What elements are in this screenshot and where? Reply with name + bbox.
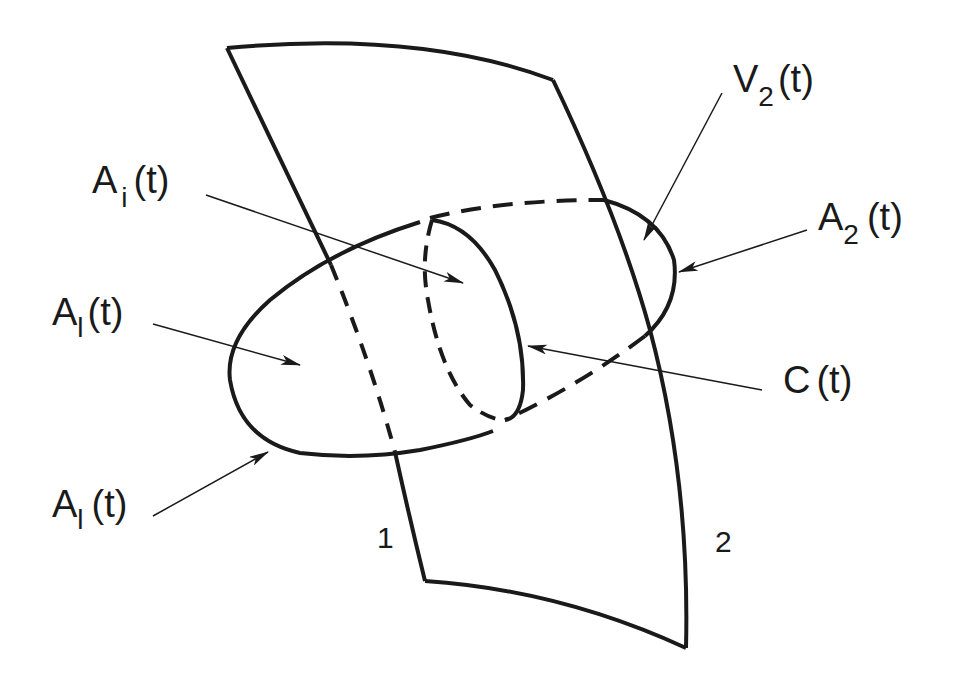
svg-text:A2(t): A2(t) (818, 196, 903, 250)
surface-sheet (227, 43, 686, 648)
label-a-l-lower-sub: l (77, 504, 83, 535)
label-a-2-sub: 2 (843, 219, 859, 250)
sheet-top-edge (227, 43, 553, 80)
svg-text:Al(t): Al(t) (52, 291, 123, 343)
label-a-l-upper-suffix: (t) (88, 291, 124, 333)
a2-dashed-bottom (505, 336, 645, 420)
label-a-l-upper-base: A (52, 291, 78, 333)
c-dashed-back (425, 220, 505, 420)
label-c: C(t) (783, 359, 852, 401)
label-a-i: Ai(t) (92, 159, 169, 213)
edge-label-2: 2 (715, 525, 732, 558)
svg-text:C(t): C(t) (783, 359, 852, 401)
label-a-2-base: A (818, 196, 844, 238)
arrow-v-2 (644, 93, 722, 240)
svg-text:V2(t): V2(t) (733, 58, 814, 112)
region-a1-outline (230, 222, 494, 456)
interface-c-curve (425, 220, 523, 420)
label-a-i-sub: i (121, 182, 127, 213)
a2-dashed-top (430, 200, 604, 218)
label-a-l-lower-suffix: (t) (92, 483, 128, 525)
c-solid-front (432, 220, 523, 420)
arrow-a-2 (679, 230, 807, 272)
label-a-i-base: A (92, 159, 118, 201)
label-v-2-base: V (733, 58, 759, 100)
label-a-l-upper-sub: l (77, 312, 83, 343)
diagram-canvas: Ai(t) V2(t) A2(t) Al(t) C(t) Al(t) 1 2 (0, 0, 971, 678)
sheet-left-edge-lower (395, 452, 425, 581)
label-a-i-suffix: (t) (134, 159, 170, 201)
label-a-2: A2(t) (818, 196, 903, 250)
arrow-a-l-upper (153, 324, 300, 365)
arrow-c (528, 346, 762, 390)
sheet-bottom-edge (425, 581, 686, 648)
label-v-2-suffix: (t) (778, 58, 814, 100)
label-a-l-upper: Al(t) (52, 291, 123, 343)
leader-arrows (153, 93, 807, 516)
label-a-2-suffix: (t) (867, 196, 903, 238)
svg-text:Ai(t): Ai(t) (92, 159, 169, 213)
label-v-2: V2(t) (733, 58, 814, 112)
label-v-2-sub: 2 (758, 81, 774, 112)
edge-label-1: 1 (377, 521, 394, 554)
label-c-base: C (783, 359, 810, 401)
label-a-l-lower: Al(t) (52, 483, 127, 535)
svg-text:Al(t): Al(t) (52, 483, 127, 535)
label-c-suffix: (t) (816, 359, 852, 401)
label-a-l-lower-base: A (52, 483, 78, 525)
arrow-a-l-lower (153, 452, 268, 516)
sheet-left-edge-hidden (331, 265, 395, 452)
